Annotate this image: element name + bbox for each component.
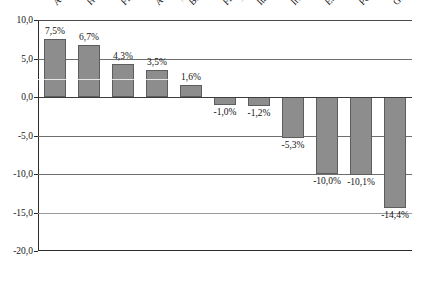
bar-value-label: -10,0% bbox=[313, 176, 341, 186]
y-axis-tick bbox=[34, 251, 38, 252]
bar[interactable] bbox=[248, 97, 269, 106]
bar[interactable] bbox=[78, 45, 99, 97]
y-axis-tick bbox=[34, 59, 38, 60]
bar[interactable] bbox=[350, 97, 371, 175]
bar[interactable] bbox=[316, 97, 337, 174]
y-axis-tick-label: -10,0 bbox=[13, 169, 33, 179]
zero-baseline bbox=[38, 97, 412, 98]
bar-value-label: 6,7% bbox=[79, 32, 99, 42]
bar[interactable] bbox=[214, 97, 235, 105]
bar[interactable] bbox=[384, 97, 405, 208]
bar-value-label: -14,4% bbox=[381, 210, 409, 220]
y-axis-tick bbox=[34, 136, 38, 137]
y-axis-tick-label: 5,0 bbox=[21, 54, 33, 64]
y-axis-tick-label: -20,0 bbox=[13, 246, 33, 256]
gridline bbox=[38, 213, 412, 214]
y-axis-tick bbox=[34, 174, 38, 175]
bar-value-label: 1,6% bbox=[181, 72, 201, 82]
scan-artifact-line bbox=[38, 79, 412, 80]
y-axis-tick-label: 10,0 bbox=[16, 15, 33, 25]
bar-value-label: -1,0% bbox=[214, 107, 237, 117]
bar-value-label: 3,5% bbox=[147, 57, 167, 67]
y-axis-tick-label: -5,0 bbox=[18, 131, 33, 141]
bar[interactable] bbox=[112, 64, 133, 97]
bar[interactable] bbox=[180, 85, 201, 97]
plot-top-border bbox=[38, 20, 412, 21]
bar-value-label: -5,3% bbox=[282, 140, 305, 150]
bar-value-label: -1,2% bbox=[248, 108, 271, 118]
x-axis-line bbox=[38, 250, 412, 251]
bar-value-label: 4,3% bbox=[113, 51, 133, 61]
bar[interactable] bbox=[282, 97, 303, 138]
y-axis-tick bbox=[34, 20, 38, 21]
bar-value-label: -10,1% bbox=[347, 177, 375, 187]
y-axis-tick-label: -15,0 bbox=[13, 208, 33, 218]
bar[interactable] bbox=[44, 39, 65, 97]
plot-area: 10,05,00,0-5,0-10,0-15,0-20,0 7,5%6,7%4,… bbox=[38, 20, 412, 251]
bar-value-label: 7,5% bbox=[45, 26, 65, 36]
y-axis-tick bbox=[34, 213, 38, 214]
bar[interactable] bbox=[146, 70, 167, 97]
y-axis-tick-label: 0,0 bbox=[21, 92, 33, 102]
